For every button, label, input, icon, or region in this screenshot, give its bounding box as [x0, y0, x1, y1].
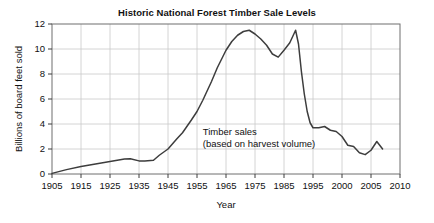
x-axis-tick-label: 2005 [360, 180, 381, 191]
x-axis-tick-labels: 1905191519251935194519551965197519851995… [41, 180, 410, 191]
x-axis-tick-label: 1905 [41, 180, 62, 191]
y-axis-tick-label: 2 [40, 143, 45, 154]
x-axis-tick-label: 2000 [331, 180, 352, 191]
timber-sales-annotation-line2: (based on harvest volume) [203, 138, 315, 149]
y-axis-tick-label: 4 [40, 118, 45, 129]
x-axis-tick-label: 1955 [186, 180, 207, 191]
x-axis-tick-label: 1985 [273, 180, 294, 191]
y-axis-tick-label: 6 [40, 93, 45, 104]
gridlines [52, 24, 400, 174]
y-axis-tick-label: 8 [40, 68, 45, 79]
timber-sales-annotation-line1: Timber sales [203, 126, 257, 137]
data-line-timber-sales [52, 30, 383, 173]
chart-annotations: Timber sales(based on harvest volume) [203, 126, 315, 149]
x-axis-tick-label: 1995 [302, 180, 323, 191]
chart-plot-area: 1905191519251935194519551965197519851995… [0, 0, 434, 223]
x-axis-tick-label: 1975 [244, 180, 265, 191]
x-axis-tick-label: 1945 [157, 180, 178, 191]
y-axis-tick-labels: 024681012 [34, 18, 45, 179]
chart-figure: Historic National Forest Timber Sale Lev… [0, 0, 434, 223]
x-axis-tick-label: 1915 [70, 180, 91, 191]
y-axis-tick-label: 10 [34, 43, 45, 54]
x-axis-tick-label: 2010 [389, 180, 410, 191]
data-series-layer [52, 30, 383, 173]
y-axis-tick-label: 12 [34, 18, 45, 29]
x-axis-tick-label: 1925 [99, 180, 120, 191]
axis-ticks [48, 24, 400, 178]
x-axis-tick-label: 1965 [215, 180, 236, 191]
x-axis-tick-label: 1935 [128, 180, 149, 191]
x-axis-title: Year [216, 199, 235, 210]
y-axis-title: Billions of board feet sold [13, 46, 24, 152]
y-axis-tick-label: 0 [40, 168, 45, 179]
